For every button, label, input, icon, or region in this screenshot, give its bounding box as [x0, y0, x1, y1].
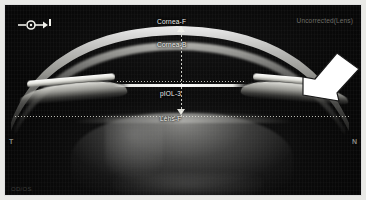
lens-nucleus: [105, 117, 163, 177]
status-badge-uncorrected: Uncorrected(Lens): [297, 17, 353, 24]
orientation-marker-nasal: N: [352, 138, 357, 145]
orientation-marker-temporal: T: [9, 138, 13, 145]
scan-direction-icon[interactable]: [17, 17, 53, 33]
label-piol: pIOL-3: [160, 90, 181, 97]
eye-code-label: OD/OS: [11, 186, 32, 192]
label-cornea-front: Cornea-F: [157, 18, 186, 25]
lens-reference-line: [15, 116, 351, 117]
oct-viewer: Cornea-F Cornea-B pIOL-3 Lens-F Uncorrec…: [0, 0, 366, 200]
posterior-echo: [113, 173, 263, 195]
label-cornea-back: Cornea-B: [157, 41, 186, 48]
oct-scan-canvas[interactable]: Cornea-F Cornea-B pIOL-3 Lens-F Uncorrec…: [5, 5, 361, 195]
label-lens-front: Lens-F: [160, 115, 181, 122]
measure-arrow-up: [177, 26, 185, 32]
